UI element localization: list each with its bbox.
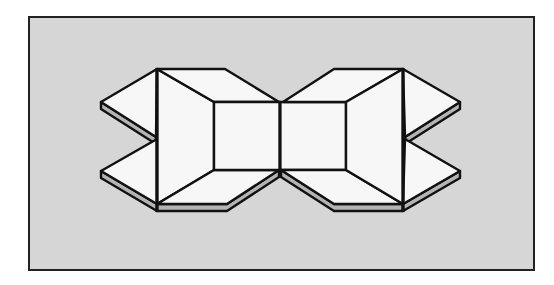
square-left bbox=[214, 102, 280, 170]
square-right bbox=[280, 102, 346, 170]
diagram-canvas bbox=[0, 0, 554, 285]
